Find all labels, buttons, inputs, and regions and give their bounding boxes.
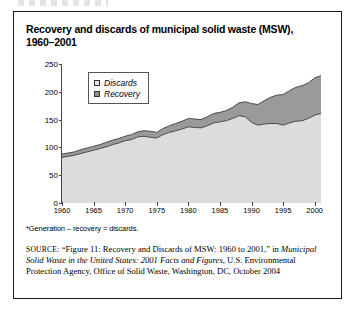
x-tick-label: 1970	[117, 206, 134, 215]
figure-title-line-1: Recovery and discards of municipal solid…	[26, 23, 329, 36]
x-tick-label: 1985	[212, 206, 229, 215]
x-tick-label: 1980	[180, 206, 197, 215]
y-tick-label: 250	[36, 60, 58, 69]
figure-title-line-2: 1960–2001	[26, 36, 329, 49]
x-tick-mark	[283, 202, 284, 206]
y-tick-mark	[59, 175, 63, 176]
y-tick-label: 150	[36, 115, 58, 124]
x-tick-mark	[220, 202, 221, 206]
y-tick-label: 50	[36, 171, 58, 180]
source-label: SOURCE:	[26, 245, 59, 254]
x-tick-mark	[188, 202, 189, 206]
legend-swatch-discards	[94, 80, 100, 86]
x-tick-mark	[315, 202, 316, 206]
plot-wrapper: Million tons 050100150200250196019651970…	[61, 64, 320, 203]
x-tick-label: 1990	[243, 206, 260, 215]
y-tick-label: 100	[36, 143, 58, 152]
source-text-line-3: Washington, DC, October 2004	[172, 266, 280, 276]
x-tick-mark	[62, 202, 63, 206]
chart-region: Million tons 050100150200250196019651970…	[14, 56, 340, 224]
legend-item-recovery: Recovery	[94, 88, 140, 99]
y-tick-mark	[59, 92, 63, 93]
x-tick-label: 2000	[306, 206, 323, 215]
figure-frame: Recovery and discards of municipal solid…	[13, 11, 342, 299]
x-tick-mark	[94, 202, 95, 206]
x-tick-mark	[252, 202, 253, 206]
x-tick-label: 1975	[148, 206, 165, 215]
y-tick-mark	[59, 147, 63, 148]
x-tick-mark	[125, 202, 126, 206]
y-tick-label: 200	[36, 87, 58, 96]
chart-legend: Discards Recovery	[88, 72, 149, 104]
x-tick-label: 1995	[275, 206, 292, 215]
x-tick-label: 1960	[54, 206, 71, 215]
x-tick-label: 1965	[85, 206, 102, 215]
figure-source: SOURCE: “Figure 11: Recovery and Discard…	[26, 244, 326, 276]
legend-swatch-recovery	[94, 91, 100, 97]
source-text-line-1: “Figure 11: Recovery and Discards of MSW…	[62, 244, 279, 254]
x-tick-mark	[157, 202, 158, 206]
y-tick-mark	[59, 64, 63, 65]
page-edge-artifact	[18, 0, 108, 6]
legend-item-discards: Discards	[94, 77, 140, 88]
figure-footnote: *Generation – recovery = discards.	[26, 224, 138, 233]
y-tick-mark	[59, 120, 63, 121]
legend-label-recovery: Recovery	[104, 89, 140, 99]
legend-label-discards: Discards	[104, 78, 137, 88]
figure-title: Recovery and discards of municipal solid…	[14, 12, 341, 48]
